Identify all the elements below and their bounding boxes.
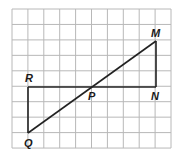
label-p: P	[88, 90, 96, 102]
label-r: R	[25, 72, 33, 84]
label-q: Q	[24, 137, 33, 149]
diagram-canvas: M N R Q P	[0, 0, 177, 152]
label-n: N	[151, 90, 160, 102]
label-m: M	[151, 27, 161, 39]
